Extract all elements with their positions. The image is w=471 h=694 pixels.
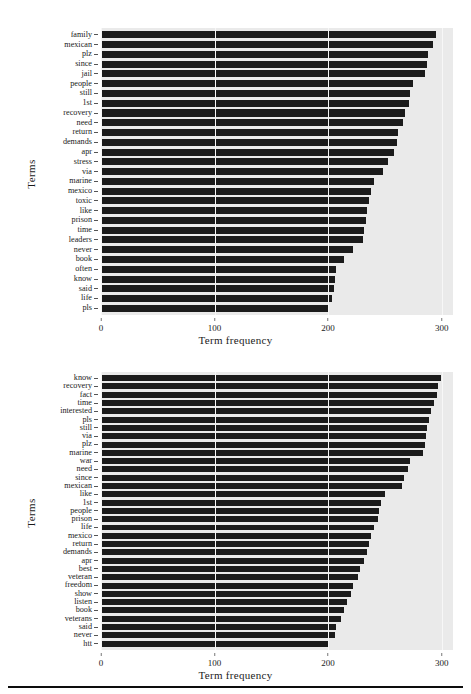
tick-mark bbox=[94, 469, 98, 470]
x-axis-label-bottom: Term frequency bbox=[0, 669, 471, 681]
bar-leaders bbox=[101, 236, 363, 243]
bar-still bbox=[101, 90, 410, 97]
tick-mark bbox=[94, 279, 98, 280]
tick-mark bbox=[94, 54, 98, 55]
bar-row bbox=[101, 415, 453, 423]
bar-fact bbox=[101, 392, 437, 398]
x-tick-200: 200 bbox=[321, 318, 335, 333]
bar-know bbox=[101, 375, 441, 381]
bar-listen bbox=[101, 599, 347, 605]
bar-via bbox=[101, 168, 383, 175]
tick-mark bbox=[94, 585, 98, 586]
bar-row bbox=[101, 294, 453, 304]
bar-row bbox=[101, 407, 453, 415]
y-tick-label: via bbox=[82, 168, 92, 176]
y-tick-label: htt bbox=[83, 640, 92, 648]
y-tick-label: return bbox=[72, 128, 92, 136]
tick-mark bbox=[94, 132, 98, 133]
bar-demands bbox=[101, 549, 367, 555]
tick-mark bbox=[94, 486, 98, 487]
x-tick-label: 200 bbox=[321, 323, 335, 333]
x-tick-label: 100 bbox=[208, 658, 222, 668]
y-tick-label: still bbox=[80, 89, 92, 97]
tick-mark bbox=[94, 259, 98, 260]
bar-row bbox=[101, 440, 453, 448]
y-tick-label: since bbox=[75, 60, 92, 68]
bar-row bbox=[101, 532, 453, 540]
bar-row bbox=[101, 465, 453, 473]
tick-mark bbox=[94, 378, 98, 379]
bar-row bbox=[101, 69, 453, 79]
y-tick-label: need bbox=[77, 119, 92, 127]
tick-mark bbox=[101, 318, 102, 321]
bar-row bbox=[101, 255, 453, 265]
bar-freedom bbox=[101, 583, 353, 589]
x-tick-label: 300 bbox=[435, 323, 449, 333]
tick-mark bbox=[94, 552, 98, 553]
tick-mark bbox=[94, 635, 98, 636]
bar-row bbox=[101, 449, 453, 457]
tick-mark bbox=[94, 461, 98, 462]
tick-mark bbox=[94, 519, 98, 520]
y-tick-1st: 1st bbox=[38, 98, 98, 108]
y-tick-label: know bbox=[74, 275, 92, 283]
y-tick-pls: pls bbox=[38, 303, 98, 313]
tick-mark bbox=[94, 618, 98, 619]
tick-mark bbox=[94, 122, 98, 123]
tick-mark bbox=[94, 152, 98, 153]
y-tick-label: people bbox=[70, 80, 92, 88]
bar-row bbox=[101, 482, 453, 490]
tick-mark bbox=[94, 103, 98, 104]
tick-mark bbox=[94, 269, 98, 270]
bar-row bbox=[101, 98, 453, 108]
bar-row bbox=[101, 137, 453, 147]
tick-mark bbox=[94, 394, 98, 395]
bar-row bbox=[101, 118, 453, 128]
tick-mark bbox=[94, 113, 98, 114]
y-tick-time: time bbox=[38, 225, 98, 235]
bar-mexico bbox=[101, 533, 371, 539]
y-tick-never: never bbox=[38, 245, 98, 255]
y-tick-label: prison bbox=[72, 216, 92, 224]
bar-said bbox=[101, 285, 334, 292]
bar-row bbox=[101, 399, 453, 407]
tick-mark bbox=[328, 318, 329, 321]
bar-row bbox=[101, 374, 453, 382]
y-tick-label: family bbox=[71, 31, 92, 39]
tick-mark bbox=[94, 535, 98, 536]
y-tick-label: demands bbox=[63, 138, 92, 146]
x-tick-label: 100 bbox=[208, 323, 222, 333]
bar-said bbox=[101, 624, 336, 630]
tick-mark bbox=[94, 308, 98, 309]
y-tick-label: often bbox=[75, 265, 92, 273]
bar-mexican bbox=[101, 41, 433, 48]
bar-row bbox=[101, 303, 453, 313]
y-tick-label: life bbox=[81, 294, 92, 302]
bar-row bbox=[101, 515, 453, 523]
tick-mark bbox=[94, 444, 98, 445]
bar-row bbox=[101, 167, 453, 177]
tick-mark bbox=[94, 568, 98, 569]
bar-life bbox=[101, 525, 374, 531]
bar-row bbox=[101, 235, 453, 245]
tick-mark bbox=[94, 239, 98, 240]
y-tick-book: book bbox=[38, 255, 98, 265]
bar-book bbox=[101, 256, 344, 263]
bar-row bbox=[101, 557, 453, 565]
chart-bottom: Terms knowrecoveryfacttimeinterestedplss… bbox=[0, 348, 471, 678]
bar-row bbox=[101, 157, 453, 167]
y-tick-label: like bbox=[80, 207, 92, 215]
bar-row bbox=[101, 548, 453, 556]
bar-return bbox=[101, 129, 398, 136]
bar-family bbox=[101, 31, 436, 38]
y-tick-label: pls bbox=[82, 304, 92, 312]
tick-mark bbox=[94, 73, 98, 74]
chart-top: Terms familymexicanplzsincejailpeoplesti… bbox=[0, 0, 471, 348]
bar-mexico bbox=[101, 188, 371, 195]
bar-row bbox=[101, 40, 453, 50]
bar-often bbox=[101, 266, 336, 273]
bar-recovery bbox=[101, 109, 405, 116]
tick-mark bbox=[94, 161, 98, 162]
x-tick-0: 0 bbox=[99, 653, 104, 668]
y-tick-label: jail bbox=[82, 70, 92, 78]
